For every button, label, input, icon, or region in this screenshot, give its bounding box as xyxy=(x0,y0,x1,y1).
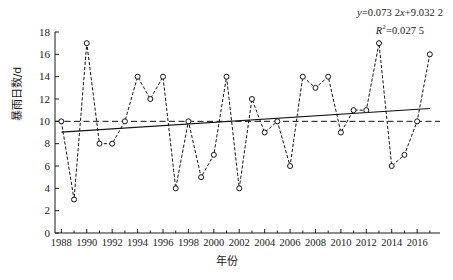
y-tick-label: 8 xyxy=(45,137,51,149)
y-tick-label: 0 xyxy=(45,227,51,239)
data-point-marker xyxy=(338,130,343,135)
data-point-marker xyxy=(377,41,382,46)
data-point-marker xyxy=(173,186,178,191)
data-point-marker xyxy=(84,41,89,46)
chart-figure: y=0.073 2x+9.032 2 R2=0.027 5 暴雨日数/d 年份 … xyxy=(0,0,453,280)
data-point-marker xyxy=(288,164,293,169)
data-point-marker xyxy=(110,141,115,146)
x-tick-label: 2006 xyxy=(280,237,301,248)
x-tick-label: 2004 xyxy=(254,237,276,248)
x-tick-label: 2000 xyxy=(203,237,224,248)
data-point-marker xyxy=(122,119,127,124)
data-point-marker xyxy=(300,74,305,79)
y-tick-label: 10 xyxy=(39,115,51,127)
x-tick-label: 2010 xyxy=(330,237,351,248)
trend-line-group xyxy=(61,108,429,132)
plot-area: 024681012141618 198819901992199419961998… xyxy=(0,0,453,280)
data-point-marker xyxy=(427,52,432,57)
data-point-marker xyxy=(199,175,204,180)
data-point-marker xyxy=(313,85,318,90)
x-tick-labels-group: 1988199019921994199619982000200220042006… xyxy=(51,237,428,248)
data-point-marker xyxy=(161,74,166,79)
data-point-marker xyxy=(249,97,254,102)
data-point-marker xyxy=(148,97,153,102)
y-tick-label: 4 xyxy=(45,182,51,194)
data-point-marker xyxy=(389,164,394,169)
x-tick-label: 1998 xyxy=(178,237,199,248)
data-point-marker xyxy=(224,74,229,79)
data-point-marker xyxy=(275,119,280,124)
linear-trend-line xyxy=(61,108,429,132)
data-point-marker xyxy=(415,119,420,124)
x-tick-label: 2012 xyxy=(356,237,377,248)
chart-svg: 024681012141618 198819901992199419961998… xyxy=(0,0,453,280)
data-point-marker xyxy=(211,152,216,157)
y-tick-label: 14 xyxy=(39,70,51,82)
x-tick-label: 1988 xyxy=(51,237,72,248)
data-point-marker xyxy=(72,197,77,202)
data-point-marker xyxy=(59,119,64,124)
x-tick-label: 2016 xyxy=(407,237,428,248)
data-point-marker xyxy=(262,130,267,135)
data-point-marker xyxy=(237,186,242,191)
data-point-marker xyxy=(364,108,369,113)
data-point-marker xyxy=(402,152,407,157)
y-tick-label: 2 xyxy=(45,204,51,216)
y-tick-label: 6 xyxy=(45,160,51,172)
y-tick-labels-group: 024681012141618 xyxy=(39,26,51,239)
x-tick-label: 2002 xyxy=(229,237,250,248)
x-tick-label: 1992 xyxy=(102,237,123,248)
data-point-marker xyxy=(186,119,191,124)
y-tick-label: 18 xyxy=(39,26,51,38)
data-point-marker xyxy=(97,141,102,146)
data-point-marker xyxy=(135,74,140,79)
x-tick-label: 2008 xyxy=(305,237,326,248)
x-tick-label: 2014 xyxy=(381,237,403,248)
data-point-marker xyxy=(351,108,356,113)
x-tick-label: 1990 xyxy=(76,237,97,248)
y-tick-label: 16 xyxy=(39,48,51,60)
data-point-marker xyxy=(326,74,331,79)
x-tick-label: 1994 xyxy=(127,237,149,248)
y-tick-label: 12 xyxy=(39,93,50,105)
x-tick-label: 1996 xyxy=(153,237,174,248)
